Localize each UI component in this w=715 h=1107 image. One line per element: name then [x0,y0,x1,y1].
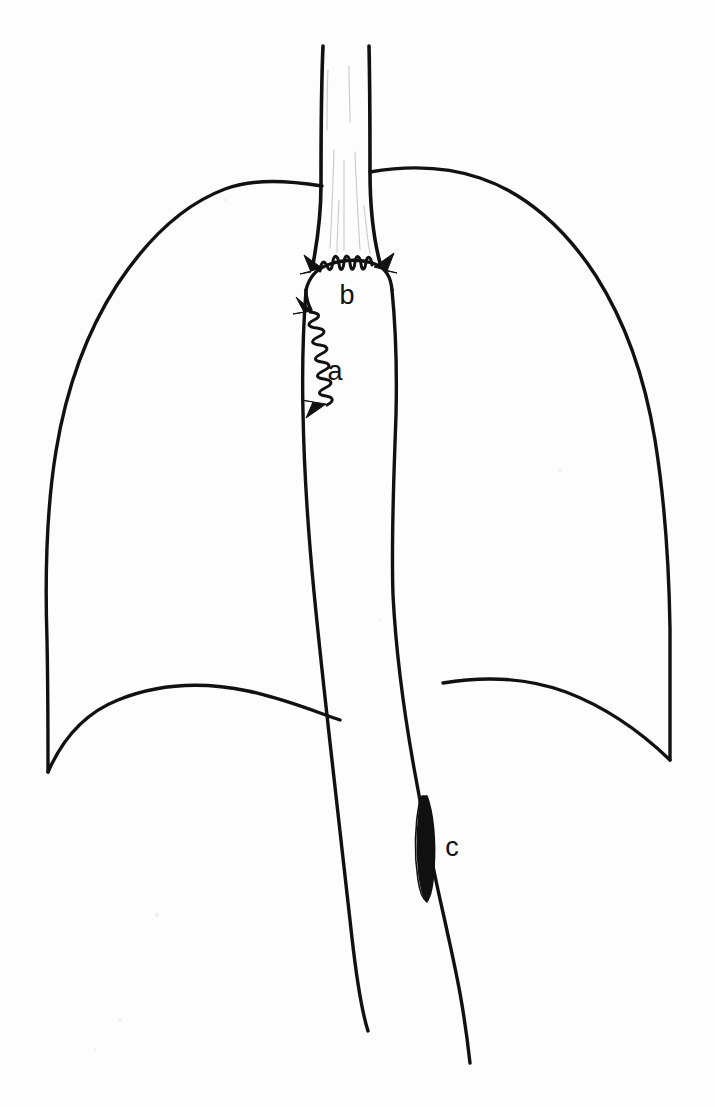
label-b: b [339,280,354,310]
label-c: c [445,832,459,862]
label-a: a [327,356,343,386]
figure-background [0,0,715,1107]
figure-canvas: a b c [0,0,715,1107]
anatomical-line-drawing: a b c [0,0,715,1107]
fusiform-lesion [416,796,435,902]
